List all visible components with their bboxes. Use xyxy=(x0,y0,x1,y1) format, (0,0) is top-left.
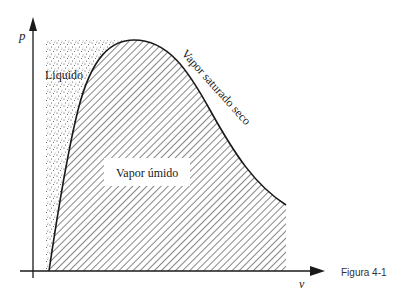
y-axis-arrow-icon xyxy=(29,17,37,31)
y-axis-label: p xyxy=(18,28,26,43)
liquid-label: Liquido xyxy=(45,68,83,82)
pv-diagram: p v Liquido Vapor úmido Vapor saturado s… xyxy=(0,0,407,296)
wet-vapor-label: Vapor úmido xyxy=(116,166,178,180)
figure-caption: Figura 4-1 xyxy=(341,267,387,278)
x-axis-label: v xyxy=(299,277,305,291)
x-axis-arrow-icon xyxy=(310,266,325,276)
